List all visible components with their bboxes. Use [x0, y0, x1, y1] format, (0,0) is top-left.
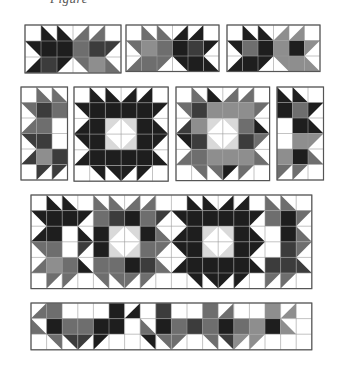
- row4-panel: [30, 302, 313, 351]
- row3-panel: [30, 194, 313, 290]
- caption-text: Figure: [50, 0, 88, 7]
- row1-panel-2: [125, 24, 220, 73]
- row2-panel-d: [276, 86, 325, 181]
- row1-panel-3: [226, 24, 321, 73]
- row1-panel-1: [24, 24, 122, 74]
- row2-panel-c: [175, 86, 271, 182]
- row2-panel-a: [20, 86, 69, 181]
- row2-panel-b: [73, 86, 169, 182]
